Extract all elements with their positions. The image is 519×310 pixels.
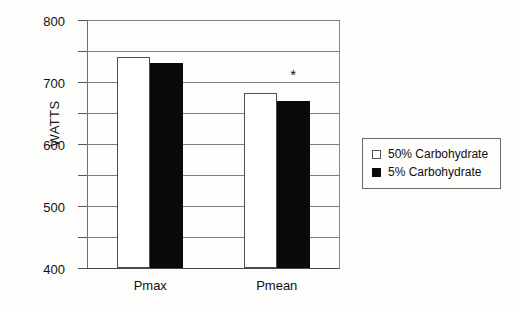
y-axis-tick-label: 600: [43, 138, 65, 153]
x-axis-label-pmax: Pmax: [134, 278, 167, 293]
bar-pmax-series-2: [150, 63, 183, 268]
gridline: [87, 51, 340, 52]
y-axis-tick: 600: [78, 82, 87, 83]
y-axis-tick: 800: [78, 20, 87, 21]
bar-pmean-series-2: [277, 101, 310, 268]
y-axis-tick: 500: [78, 113, 87, 114]
y-axis-tick-label: 400: [43, 262, 65, 277]
y-axis-tick: 700: [78, 51, 87, 52]
legend-label: 50% Carbohydrate: [388, 147, 488, 161]
legend-item-5-carbohydrate: 5% Carbohydrate: [372, 164, 491, 180]
y-axis-tick-label: 700: [43, 76, 65, 91]
y-axis-tick: 100: [78, 237, 87, 238]
y-axis-tick: 0: [78, 268, 87, 269]
y-axis-tick: 300: [78, 175, 87, 176]
legend-swatch-light-icon: [372, 150, 381, 159]
legend-label: 5% Carbohydrate: [388, 165, 481, 179]
bar-pmax-series-1: [117, 57, 150, 268]
bar-pmean-series-1: [244, 93, 277, 268]
y-axis-tick-label: 800: [43, 14, 65, 29]
gridline: [87, 20, 340, 21]
bar-chart-figure: WATTS 8007006005004003002001000 * PmaxPm…: [0, 0, 519, 310]
plot-area: 8007006005004003002001000 *: [87, 20, 340, 268]
gridline: [87, 268, 340, 269]
y-axis-tick-label: 500: [43, 200, 65, 215]
legend-swatch-dark-icon: [372, 168, 381, 177]
significance-asterisk: *: [290, 67, 296, 82]
x-axis-label-pmean: Pmean: [256, 278, 297, 293]
y-axis-tick: 400: [78, 144, 87, 145]
y-axis-tick: 200: [78, 206, 87, 207]
legend-item-50-carbohydrate: 50% Carbohydrate: [372, 146, 491, 162]
legend: 50% Carbohydrate 5% Carbohydrate: [362, 138, 501, 189]
